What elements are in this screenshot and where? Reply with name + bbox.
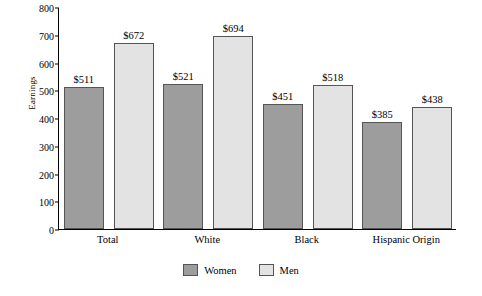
bar-women-total: $511 bbox=[64, 87, 104, 229]
bar-value-label: $511 bbox=[73, 74, 94, 85]
y-tick-label: 200 bbox=[8, 169, 59, 180]
y-tick-label: 300 bbox=[8, 141, 59, 152]
y-tick-label: 100 bbox=[8, 197, 59, 208]
bar-women-black: $451 bbox=[263, 104, 303, 229]
bar-value-label: $521 bbox=[173, 71, 194, 82]
legend-swatch-men-icon bbox=[259, 264, 274, 276]
plot-inner: 0100200300400500600700800$511$672$521$69… bbox=[59, 8, 456, 229]
plot-area: 0100200300400500600700800$511$672$521$69… bbox=[58, 8, 456, 230]
x-category-label: Hispanic Origin bbox=[357, 234, 457, 245]
bar-value-label: $694 bbox=[223, 23, 244, 34]
legend-item-women: Women bbox=[183, 264, 236, 276]
bar-group: $385$438 bbox=[358, 8, 458, 229]
bar-men-white: $694 bbox=[213, 36, 253, 229]
y-tick-label: 500 bbox=[8, 86, 59, 97]
y-tick-label: 700 bbox=[8, 30, 59, 41]
bar-value-label: $672 bbox=[123, 30, 144, 41]
legend-label-women: Women bbox=[204, 265, 236, 276]
bar-group: $451$518 bbox=[258, 8, 358, 229]
y-tick-label: 800 bbox=[8, 3, 59, 14]
y-tick-mark bbox=[55, 230, 59, 231]
bar-value-label: $518 bbox=[322, 72, 343, 83]
legend-swatch-women-icon bbox=[183, 264, 198, 276]
bar-group: $511$672 bbox=[59, 8, 159, 229]
legend-item-men: Men bbox=[259, 264, 299, 276]
bar-men-black: $518 bbox=[313, 85, 353, 229]
bar-women-hispanic-origin: $385 bbox=[362, 122, 402, 229]
legend-label-men: Men bbox=[280, 265, 299, 276]
x-category-label: White bbox=[158, 234, 258, 245]
x-category-label: Black bbox=[257, 234, 357, 245]
bar-men-hispanic-origin: $438 bbox=[412, 107, 452, 229]
y-tick-label: 400 bbox=[8, 114, 59, 125]
bar-chart: Earnings 0100200300400500600700800$511$6… bbox=[0, 0, 482, 296]
y-tick-label: 0 bbox=[8, 225, 59, 236]
bar-value-label: $438 bbox=[422, 94, 443, 105]
y-tick-label: 600 bbox=[8, 58, 59, 69]
bar-women-white: $521 bbox=[163, 84, 203, 229]
x-category-label: Total bbox=[58, 234, 158, 245]
bar-value-label: $385 bbox=[372, 109, 393, 120]
legend: Women Men bbox=[0, 264, 482, 276]
bar-value-label: $451 bbox=[272, 91, 293, 102]
bar-group: $521$694 bbox=[159, 8, 259, 229]
bar-men-total: $672 bbox=[114, 43, 154, 229]
